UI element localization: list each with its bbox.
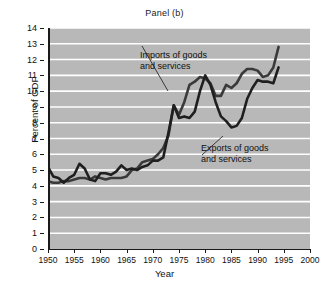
x-tick-label: 1950 xyxy=(39,255,58,265)
y-tick-mark xyxy=(40,233,44,234)
x-tick-label: 1965 xyxy=(117,255,136,265)
annotation-imports-line2: and services xyxy=(140,61,207,72)
y-tick-mark xyxy=(40,107,44,108)
x-tick-mark xyxy=(205,249,206,253)
y-tick-mark xyxy=(40,139,44,140)
y-tick-label: 3 xyxy=(32,197,37,207)
y-tick-label: 14 xyxy=(27,23,37,33)
y-tick-label: 1 xyxy=(32,228,37,238)
y-tick-label: 0 xyxy=(32,244,37,254)
x-tick-mark xyxy=(258,249,259,253)
chart-title: Panel (b) xyxy=(0,8,329,18)
y-tick-label: 4 xyxy=(32,181,37,191)
y-tick-mark xyxy=(40,154,44,155)
annotation-exports-line1: Exports of goods xyxy=(201,143,269,154)
x-tick-label: 1960 xyxy=(91,255,110,265)
y-tick-label: 8 xyxy=(32,118,37,128)
x-tick-label: 1990 xyxy=(248,255,267,265)
y-tick-mark xyxy=(40,75,44,76)
y-tick-label: 6 xyxy=(32,149,37,159)
y-tick-mark xyxy=(40,217,44,218)
x-tick-label: 1970 xyxy=(143,255,162,265)
y-tick-label: 2 xyxy=(32,212,37,222)
y-tick-mark xyxy=(40,60,44,61)
series-exports xyxy=(48,67,279,182)
chart-figure: Panel (b) Percent of GDP 012345678910111… xyxy=(0,0,329,290)
x-tick-label: 2000 xyxy=(301,255,320,265)
x-tick-label: 1995 xyxy=(274,255,293,265)
x-tick-mark xyxy=(231,249,232,253)
annotation-exports: Exports of goods and services xyxy=(201,143,269,165)
y-tick-mark xyxy=(40,44,44,45)
y-tick-mark xyxy=(40,123,44,124)
y-tick-mark xyxy=(40,170,44,171)
y-tick-label: 9 xyxy=(32,102,37,112)
annotation-imports: Imports of goods and services xyxy=(140,50,207,72)
y-tick-label: 13 xyxy=(27,39,37,49)
y-tick-mark xyxy=(40,28,44,29)
y-axis-line xyxy=(48,28,50,250)
y-tick-mark xyxy=(40,91,44,92)
y-tick-mark xyxy=(40,202,44,203)
y-tick-label: 11 xyxy=(28,70,37,80)
y-tick-label: 12 xyxy=(27,55,37,65)
x-tick-mark xyxy=(74,249,75,253)
x-tick-label: 1975 xyxy=(170,255,189,265)
x-tick-mark xyxy=(284,249,285,253)
x-axis-ticks: 1950195519601965197019751980198519901995… xyxy=(48,249,310,269)
x-tick-label: 1985 xyxy=(222,255,241,265)
x-tick-mark xyxy=(310,249,311,253)
x-tick-label: 1980 xyxy=(196,255,215,265)
x-tick-mark xyxy=(48,249,49,253)
y-axis-ticks: 01234567891011121314 xyxy=(0,28,44,249)
x-tick-mark xyxy=(100,249,101,253)
y-tick-label: 5 xyxy=(32,165,37,175)
x-tick-mark xyxy=(127,249,128,253)
x-tick-mark xyxy=(153,249,154,253)
annotation-exports-line2: and services xyxy=(201,154,269,165)
x-axis-title: Year xyxy=(0,268,329,279)
y-tick-mark xyxy=(40,186,44,187)
y-tick-label: 7 xyxy=(32,134,37,144)
annotation-imports-line1: Imports of goods xyxy=(140,50,207,61)
y-tick-label: 10 xyxy=(27,86,37,96)
y-tick-mark xyxy=(40,249,44,250)
x-tick-label: 1955 xyxy=(65,255,84,265)
x-tick-mark xyxy=(179,249,180,253)
